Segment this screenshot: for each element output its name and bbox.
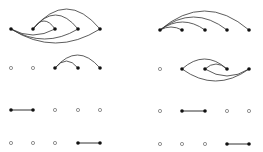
filled-node: [9, 108, 13, 112]
filled-node: [76, 141, 80, 145]
filled-node: [180, 109, 184, 113]
filled-node: [203, 28, 207, 32]
filled-node: [180, 28, 184, 32]
filled-node: [158, 28, 162, 32]
arc-diagram-canvas: [0, 0, 263, 152]
hollow-node: [76, 108, 79, 111]
hollow-node: [247, 109, 250, 112]
graph-row: [9, 55, 101, 70]
hollow-node: [180, 142, 183, 145]
filled-node: [247, 142, 251, 146]
filled-node: [180, 67, 184, 71]
filled-node: [98, 66, 102, 70]
hollow-node: [158, 142, 161, 145]
hollow-node: [98, 108, 101, 111]
graph-row: [158, 109, 250, 113]
filled-node: [203, 67, 207, 71]
filled-node: [76, 66, 80, 70]
panel-right: [158, 11, 251, 146]
graph-row: [158, 142, 250, 146]
hollow-node: [31, 141, 34, 144]
filled-node: [53, 27, 57, 31]
graph-row: [9, 108, 101, 112]
hollow-node: [53, 108, 56, 111]
filled-node: [247, 28, 251, 32]
arc-edge: [55, 55, 100, 68]
hollow-node: [53, 141, 56, 144]
filled-node: [53, 66, 57, 70]
arc-edge: [182, 69, 249, 81]
hollow-node: [9, 66, 12, 69]
filled-node: [98, 27, 102, 31]
arc-edge: [11, 29, 100, 43]
hollow-node: [31, 66, 34, 69]
arc-edge: [11, 29, 78, 39]
graph-row: [158, 11, 251, 32]
graph-row: [9, 9, 102, 43]
hollow-node: [9, 141, 12, 144]
hollow-node: [158, 67, 161, 70]
filled-node: [225, 67, 229, 71]
filled-node: [31, 27, 35, 31]
hollow-node: [158, 109, 161, 112]
filled-node: [76, 27, 80, 31]
graph-row: [9, 141, 101, 145]
filled-node: [98, 141, 102, 145]
panel-left: [9, 9, 102, 145]
filled-node: [247, 67, 251, 71]
hollow-node: [203, 142, 206, 145]
filled-node: [225, 142, 229, 146]
filled-node: [203, 109, 207, 113]
arc-edge: [205, 64, 227, 69]
filled-node: [225, 28, 229, 32]
hollow-node: [225, 109, 228, 112]
arc-edge: [33, 9, 100, 29]
filled-node: [31, 108, 35, 112]
filled-node: [9, 27, 13, 31]
graph-row: [158, 59, 250, 81]
